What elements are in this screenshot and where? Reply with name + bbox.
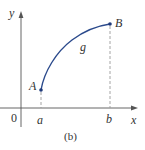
x-axis-arrow-icon (131, 106, 138, 111)
point-a-label: A (29, 80, 36, 92)
y-axis-arrow-icon (19, 11, 24, 18)
x-axis-label: x (131, 114, 136, 126)
graph-figure: y x 0 a b A B g (b) (0, 0, 145, 150)
point-a-dot (39, 88, 43, 92)
curve-g (41, 24, 110, 90)
y-axis-label: y (9, 7, 14, 19)
tick-b-label: b (106, 113, 112, 125)
point-b-dot (108, 22, 112, 26)
plot-canvas (0, 0, 145, 150)
point-b-label: B (115, 17, 122, 29)
origin-label: 0 (11, 112, 17, 124)
curve-g-label: g (80, 41, 86, 53)
figure-caption: (b) (64, 131, 77, 142)
tick-a-label: a (37, 114, 43, 126)
